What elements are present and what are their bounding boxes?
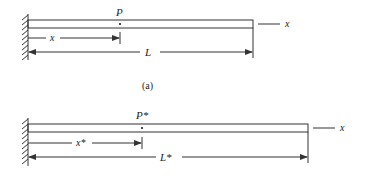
point-p-star-marker bbox=[141, 127, 143, 129]
caption-a: (a) bbox=[142, 80, 153, 92]
x-star-position-label: x* bbox=[75, 137, 85, 148]
fixed-wall-b bbox=[22, 118, 28, 166]
length-l-label: L bbox=[144, 46, 151, 58]
length-l-star-label: L* bbox=[159, 151, 172, 163]
figure-b bbox=[22, 118, 335, 166]
x-axis-label-b: x bbox=[339, 122, 345, 133]
beam-b bbox=[28, 124, 308, 132]
x-position-label: x bbox=[49, 32, 55, 43]
beam-a bbox=[28, 20, 253, 28]
x-axis-label-a: x bbox=[284, 18, 290, 29]
point-p-label: P bbox=[115, 6, 123, 18]
point-p-marker bbox=[119, 23, 121, 25]
cantilever-diagram: P x L x (a) P* x* L* x bbox=[0, 0, 366, 184]
fixed-wall-a bbox=[22, 14, 28, 60]
point-p-star-label: P* bbox=[135, 109, 149, 121]
